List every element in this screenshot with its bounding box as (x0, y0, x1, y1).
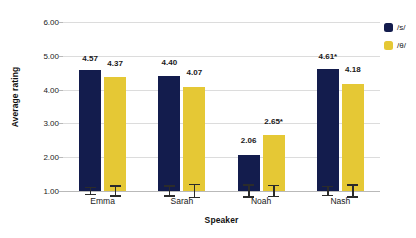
legend: /s/ /θ/ (384, 20, 406, 56)
legend-label-s: /s/ (397, 23, 405, 32)
x-axis-title: Speaker (63, 215, 380, 225)
error-bar-cap-top (85, 187, 96, 188)
legend-item-s[interactable]: /s/ (384, 20, 406, 35)
y-tick-label: 5.00 (25, 51, 59, 60)
bar-value-label: 4.37 (107, 59, 123, 68)
error-bar-cap-top (268, 185, 279, 186)
error-bar (110, 185, 121, 196)
bar[interactable] (158, 76, 180, 191)
bar-value-label: 4.57 (82, 54, 98, 63)
bar[interactable] (342, 84, 364, 191)
y-tick-label: 1.00 (25, 187, 59, 196)
legend-swatch-s (384, 23, 393, 32)
error-bar-cap-top (110, 185, 121, 186)
x-tick-label: Nash (330, 196, 350, 206)
error-bar-cap-top (164, 185, 175, 186)
bar-value-label: 4.40 (162, 58, 178, 67)
bar[interactable] (104, 77, 126, 191)
bar-chart: Average rating Speaker 1.002.003.004.005… (0, 0, 416, 238)
bar[interactable] (79, 70, 101, 191)
legend-swatch-theta (384, 41, 393, 50)
y-tick-label: 4.00 (25, 85, 59, 94)
bar[interactable] (238, 155, 260, 191)
bar-value-label: 2.06 (241, 136, 257, 145)
error-bar (164, 185, 175, 196)
legend-label-theta: /θ/ (397, 41, 406, 50)
error-bar (85, 187, 96, 195)
bar[interactable] (183, 87, 205, 191)
bar[interactable] (317, 69, 339, 191)
y-tick-label: 6.00 (25, 18, 59, 27)
x-tick-label: Sarah (171, 196, 194, 206)
error-bar (322, 186, 333, 197)
bar-value-label: 4.18 (345, 65, 361, 74)
error-bar-cap-top (189, 184, 200, 185)
error-bar-cap-top (243, 184, 254, 185)
bar-group: 4.404.07 (158, 22, 205, 191)
error-bar-cap-top (322, 186, 333, 187)
error-bar-cap-top (347, 184, 358, 185)
bar-group: 2.062.65* (238, 22, 285, 191)
y-axis-ticks: 1.002.003.004.005.006.00 (19, 22, 59, 192)
bar-value-label: 4.61* (319, 52, 338, 61)
plot-area: 4.574.374.404.072.062.65*4.61*4.18 EmmaS… (63, 22, 380, 192)
y-tick-label: 3.00 (25, 119, 59, 128)
bar-groups: 4.574.374.404.072.062.65*4.61*4.18 (63, 22, 380, 192)
error-bar-cap-bottom (85, 194, 96, 195)
bar-group: 4.61*4.18 (317, 22, 364, 191)
bar-value-label: 2.65* (264, 117, 283, 126)
legend-item-theta[interactable]: /θ/ (384, 38, 406, 53)
bar[interactable] (263, 135, 285, 191)
x-tick-label: Emma (90, 196, 115, 206)
bar-group: 4.574.37 (79, 22, 126, 191)
x-tick-label: Noah (251, 196, 271, 206)
bar-value-label: 4.07 (187, 68, 203, 77)
y-tick-label: 2.00 (25, 153, 59, 162)
